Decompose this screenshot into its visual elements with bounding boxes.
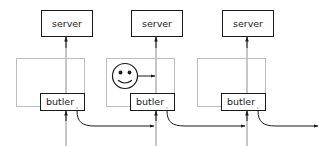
connector-unit-1-to-unit-2 <box>77 111 154 127</box>
server-box-unit-1[interactable]: server <box>42 11 93 37</box>
smiley-eye-left-icon <box>119 71 123 75</box>
vertical-flow-lines <box>66 36 247 146</box>
chain-connectors <box>77 111 318 127</box>
butler-to-server-arrows <box>66 37 247 48</box>
butler-label-1: butler <box>46 96 74 107</box>
butler-subscript-1: , <box>76 103 78 109</box>
butler-box-unit-2[interactable]: butler , <box>131 94 175 111</box>
inbound-to-butler-arrows <box>66 111 247 121</box>
smiley-face-icon <box>113 64 138 89</box>
server-label-1: server <box>52 18 82 29</box>
connector-unit-3-to-outside <box>258 111 318 127</box>
butler-subscript-3: , <box>257 103 259 109</box>
butler-server-chain-diagram: server server server butler , butler <box>0 0 326 146</box>
connector-unit-2-to-unit-3 <box>167 111 245 127</box>
server-label-3: server <box>233 18 263 29</box>
user-smiley-group-unit-2 <box>113 64 156 89</box>
butler-box-unit-1[interactable]: butler , <box>41 94 85 111</box>
smiley-eye-right-icon <box>128 71 132 75</box>
diagram-canvas: server server server butler , butler <box>0 0 326 146</box>
butler-subscript-2: , <box>166 103 168 109</box>
server-box-unit-3[interactable]: server <box>223 11 274 37</box>
butler-label-3: butler <box>227 96 255 107</box>
butler-box-unit-3[interactable]: butler , <box>222 94 266 111</box>
server-label-2: server <box>142 18 172 29</box>
server-box-unit-2[interactable]: server <box>132 11 183 37</box>
butler-label-2: butler <box>136 96 164 107</box>
